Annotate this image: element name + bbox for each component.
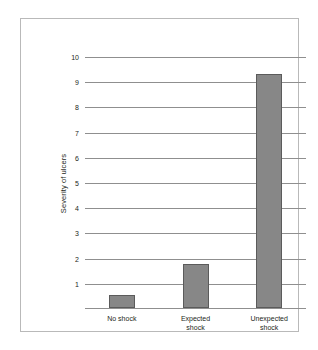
y-axis-tick-label: 3 <box>75 230 79 237</box>
bar <box>256 74 282 308</box>
gridline <box>85 57 306 58</box>
category-label: Expected shock <box>181 314 210 332</box>
y-axis-tick-label: 7 <box>75 129 79 136</box>
y-axis-title: Severity of ulcers <box>57 57 71 309</box>
y-axis-tick-label: 6 <box>75 154 79 161</box>
bar <box>109 295 135 308</box>
category-label: No shock <box>107 314 136 323</box>
y-axis-tick-label: 5 <box>75 180 79 187</box>
chart-figure: Severity of ulcers 10987654321 No shockE… <box>0 0 318 350</box>
category-label: Unexpected shock <box>251 314 288 332</box>
y-axis-tick-label: 2 <box>75 255 79 262</box>
bar <box>183 264 209 308</box>
plot-area: 10987654321 No shockExpected shockUnexpe… <box>85 57 306 309</box>
y-axis-tick-label: 9 <box>75 79 79 86</box>
figure-frame: Severity of ulcers 10987654321 No shockE… <box>20 18 299 332</box>
y-axis-tick-label: 8 <box>75 104 79 111</box>
y-axis-title-text: Severity of ulcers <box>60 153 69 212</box>
y-axis-tick-label: 10 <box>71 54 79 61</box>
y-axis-tick-label: 4 <box>75 205 79 212</box>
y-axis-tick-label: 1 <box>75 280 79 287</box>
category-axis-line <box>85 308 306 309</box>
